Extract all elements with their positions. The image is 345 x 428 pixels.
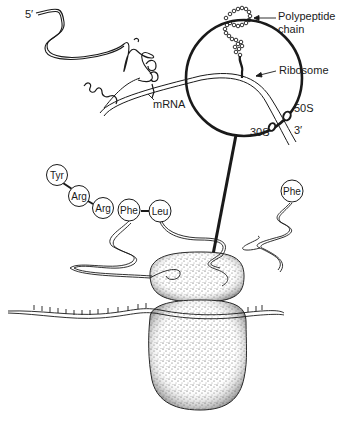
mrna-strand-upper (36, 9, 154, 81)
label-mrna: mRNA (153, 98, 186, 110)
svg-text:Leu: Leu (152, 206, 169, 217)
label-30s: 30S (250, 126, 270, 138)
label-5-prime: 5′ (25, 8, 33, 20)
translation-diagram: Tyr Arg Arg Phe Leu Phe 5′ mRNA Polypept… (0, 0, 345, 428)
svg-text:Arg: Arg (95, 203, 111, 214)
amino-acid-arg-2: Arg (93, 198, 114, 219)
label-3-prime: 3′ (294, 124, 302, 136)
svg-text:Tyr: Tyr (50, 170, 65, 181)
subunit-50s (282, 110, 292, 121)
peptide-stem (240, 56, 243, 78)
label-ribosome: Ribosome (279, 64, 329, 76)
label-50s: 50S (294, 102, 314, 114)
svg-text:Phe: Phe (283, 186, 301, 197)
polypeptide-chain-beads (223, 6, 252, 57)
label-polypeptide-2: chain (278, 23, 304, 35)
amino-acid-phe-1: Phe (118, 199, 140, 221)
amino-acid-arg-1: Arg (69, 186, 90, 207)
amino-acid-phe-2: Phe (281, 180, 303, 202)
amino-acid-tyr: Tyr (47, 165, 68, 186)
amino-acid-leu: Leu (149, 200, 171, 222)
svg-text:Phe: Phe (120, 205, 138, 216)
label-polypeptide-1: Polypeptide (278, 10, 336, 22)
svg-text:Arg: Arg (71, 191, 87, 202)
